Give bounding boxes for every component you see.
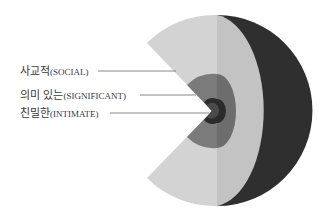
label-significant: 의미 있는(SIGNIFICANT) <box>20 89 126 102</box>
relationship-circles-diagram: 사교적(SOCIAL) 의미 있는(SIGNIFICANT) 친밀한(INTIM… <box>0 0 332 220</box>
label-intimate: 친밀한(INTIMATE) <box>20 107 99 120</box>
label-social: 사교적(SOCIAL) <box>20 65 89 78</box>
social-ring-left <box>147 15 217 206</box>
